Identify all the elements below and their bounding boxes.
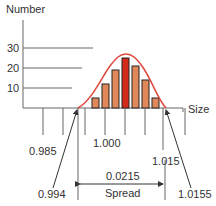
bar-2 <box>102 84 109 108</box>
y-axis-label: Number <box>6 3 45 15</box>
bar-4-highlight <box>122 58 129 108</box>
arrow-0994 <box>53 110 77 188</box>
arrow-10155 <box>166 110 191 188</box>
y-tick-30: 30 <box>7 42 19 54</box>
x-label-0985: 0.985 <box>29 145 57 157</box>
y-tick-10: 10 <box>7 82 19 94</box>
x-axis-label: Size <box>188 103 209 115</box>
bar-7 <box>152 98 159 108</box>
spread-label: Spread <box>105 187 140 199</box>
x-label-1000: 1.000 <box>93 137 121 149</box>
y-tick-20: 20 <box>7 62 19 74</box>
bar-5 <box>132 66 139 108</box>
bar-1 <box>92 98 99 108</box>
spread-value: 0.0215 <box>106 170 140 182</box>
x-label-10155: 1.0155 <box>178 188 212 200</box>
bar-6 <box>142 80 149 108</box>
x-label-1015: 1.015 <box>152 155 180 167</box>
bar-3 <box>112 70 119 108</box>
histogram-bars <box>92 58 159 108</box>
spread-chart: Number 30 20 10 Size 0.985 1.000 1.015 <box>0 0 216 206</box>
x-label-0994: 0.994 <box>38 188 66 200</box>
